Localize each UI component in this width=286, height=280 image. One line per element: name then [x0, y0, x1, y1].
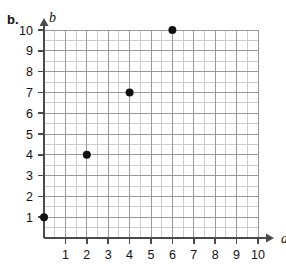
axis-ticks [38, 30, 258, 244]
x-axis-label: a [281, 231, 286, 246]
x-axis-tick-labels: 12345678910 [62, 248, 265, 262]
x-tick-label: 4 [126, 248, 133, 262]
x-tick-label: 2 [83, 248, 90, 262]
y-tick-label: 5 [26, 128, 33, 142]
x-tick-label: 10 [251, 248, 265, 262]
x-tick-label: 6 [169, 248, 176, 262]
y-tick-label: 9 [26, 44, 33, 58]
axis-lines [40, 18, 275, 243]
figure-container: b. 12345678910 12345678910 (0, 1)(2, 4)(… [0, 0, 286, 280]
x-tick-label: 3 [105, 248, 112, 262]
data-point: (6, 10) [168, 26, 176, 34]
x-tick-label: 7 [190, 248, 197, 262]
y-tick-label: 7 [26, 86, 33, 100]
x-tick-label: 5 [148, 248, 155, 262]
data-point: (4, 7) [126, 88, 134, 96]
y-tick-label: 10 [19, 24, 33, 38]
x-tick-label: 8 [212, 248, 219, 262]
y-tick-label: 1 [26, 211, 33, 225]
y-axis-label: b [49, 10, 56, 25]
y-tick-label: 3 [26, 169, 33, 183]
data-point: (2, 4) [83, 151, 91, 159]
data-point: (0, 1) [40, 213, 48, 221]
x-tick-label: 1 [62, 248, 69, 262]
y-tick-label: 8 [26, 65, 33, 79]
y-tick-label: 6 [26, 107, 33, 121]
coordinate-plane-chart: 12345678910 12345678910 (0, 1)(2, 4)(4, … [0, 0, 286, 280]
x-tick-label: 9 [233, 248, 240, 262]
y-axis-tick-labels: 12345678910 [19, 24, 33, 225]
y-tick-label: 2 [26, 190, 33, 204]
y-tick-label: 4 [26, 148, 33, 162]
